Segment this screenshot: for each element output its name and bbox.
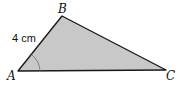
triangle-abc: [18, 16, 166, 71]
vertex-label-c: C: [166, 69, 175, 83]
vertex-label-b: B: [57, 2, 67, 16]
triangle-diagram: B A C 4 cm: [0, 0, 182, 87]
side-length-label: 4 cm: [12, 32, 36, 44]
vertex-label-a: A: [6, 69, 16, 83]
